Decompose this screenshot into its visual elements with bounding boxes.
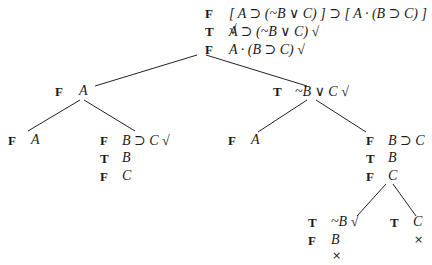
truth-value: T [390,215,399,231]
formula: C [122,168,131,184]
formula: A · (B ⊃ C) √ [229,41,305,58]
truth-value: F [308,233,316,249]
truth-value: F [205,6,213,22]
edge-root-left [95,55,197,86]
truth-value: F [55,84,63,100]
formula: A [251,132,260,148]
truth-value: T [205,24,214,40]
closed-branch-mark: × [332,249,341,262]
truth-value: F [205,42,213,58]
formula: B [388,150,397,166]
formula: C [413,214,422,230]
edge-rr-left [357,184,386,216]
truth-value: F [228,133,236,149]
truth-value: T [273,84,282,100]
formula: ~B ∨ C √ [295,83,349,100]
formula: B [331,232,340,248]
edge-root-right [206,55,307,86]
truth-value: F [366,133,374,149]
formula: B ⊃ C [388,132,425,149]
edge-rr-right [393,184,416,216]
edge-left-right [84,100,135,131]
formula: C [388,168,397,184]
truth-value: F [8,133,16,149]
truth-value: T [308,215,317,231]
truth-value: T [366,151,375,167]
truth-value: F [100,133,108,149]
edge-left-left [28,100,80,131]
edge-right-right [316,100,366,132]
formula: A ⊃ (~B ∨ C) √ [229,23,319,40]
truth-value: F [366,169,374,185]
edge-right-left [258,100,307,132]
truth-value: F [100,169,108,185]
formula: B [122,150,131,166]
formula: A [31,132,40,148]
formula: B ⊃ C √ [122,132,170,149]
closed-branch-mark: × [414,233,423,246]
formula: A [79,83,88,99]
truth-value: T [100,151,109,167]
formula: ~B √ [331,214,358,230]
